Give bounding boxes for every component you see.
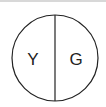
left-section-label: Y bbox=[27, 50, 38, 69]
divided-circle-diagram: Y G bbox=[0, 0, 106, 107]
right-section-label: G bbox=[69, 50, 82, 69]
